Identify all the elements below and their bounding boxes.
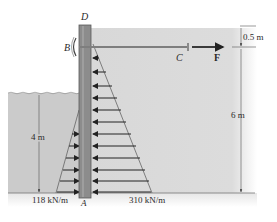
label-f: F xyxy=(214,52,220,63)
dim-4m: 4 m xyxy=(31,132,45,142)
label-a: A xyxy=(80,198,87,208)
label-b: B xyxy=(64,42,70,53)
water-region xyxy=(8,93,79,193)
sheet-pile-wall xyxy=(79,25,91,198)
dim-6m: 6 m xyxy=(231,110,245,120)
load-soil-max: 310 kN/m xyxy=(129,195,165,205)
label-d: D xyxy=(80,11,89,22)
sheet-pile-diagram: D B C F A 0.5 m 6 m 4 m 118 kN/m 310 kN/… xyxy=(0,0,277,222)
dim-0-5m: 0.5 m xyxy=(243,32,264,42)
load-water-max: 118 kN/m xyxy=(32,195,68,205)
label-c: C xyxy=(176,52,183,63)
pin-bracket-icon xyxy=(74,38,77,56)
